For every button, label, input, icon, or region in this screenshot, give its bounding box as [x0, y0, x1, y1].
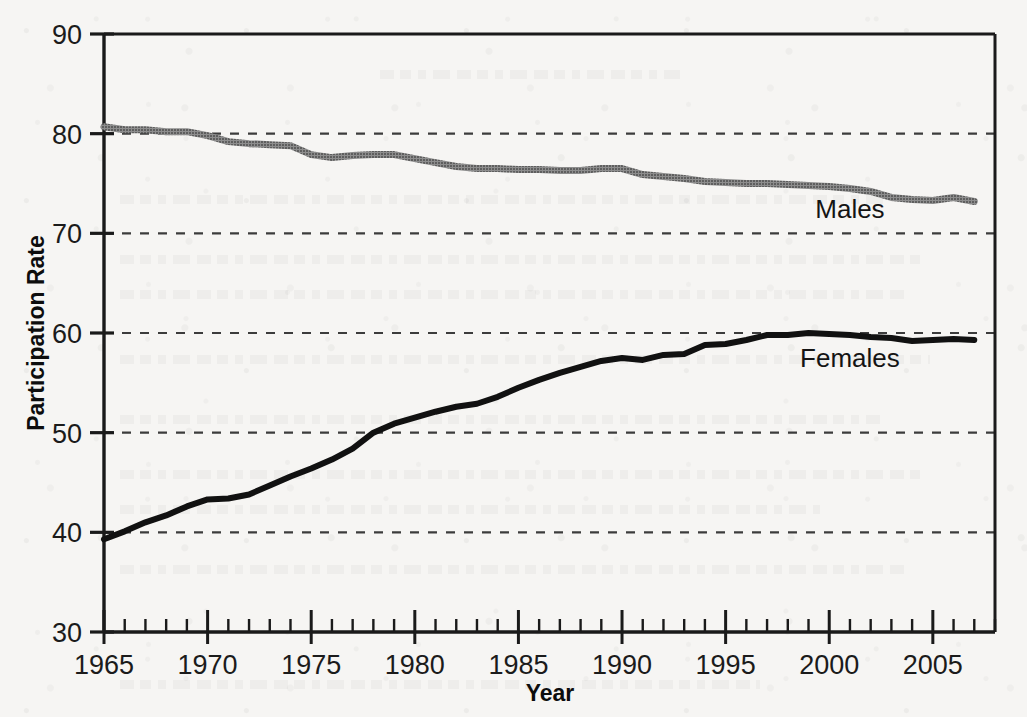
annotation-females: Females: [800, 343, 900, 373]
annotation-males: Males: [815, 194, 884, 224]
x-tick-label-1965: 1965: [74, 650, 134, 680]
x-tick-label-2005: 2005: [903, 650, 963, 680]
x-axis-tick-labels: 196519701975198019851990199520002005: [74, 650, 963, 680]
y-tick-label-70: 70: [52, 219, 82, 249]
y-axis-ticks: [90, 34, 114, 632]
y-axis-title: Participation Rate: [23, 235, 49, 431]
y-tick-label-40: 40: [52, 518, 82, 548]
x-tick-label-1995: 1995: [696, 650, 756, 680]
y-tick-label-60: 60: [52, 319, 82, 349]
x-tick-label-2000: 2000: [799, 650, 859, 680]
x-tick-label-1975: 1975: [281, 650, 341, 680]
y-tick-label-50: 50: [52, 419, 82, 449]
x-tick-label-1990: 1990: [592, 650, 652, 680]
y-tick-label-30: 30: [52, 618, 82, 648]
x-tick-label-1980: 1980: [385, 650, 445, 680]
x-tick-label-1970: 1970: [178, 650, 238, 680]
chart-figure: 30405060708090 1965197019751980198519901…: [0, 0, 1027, 717]
x-tick-label-1985: 1985: [488, 650, 548, 680]
x-axis-title: Year: [526, 680, 575, 706]
series-annotations: MalesFemales: [800, 194, 900, 373]
y-tick-label-90: 90: [52, 20, 82, 50]
y-tick-label-80: 80: [52, 120, 82, 150]
chart-plot-area: 30405060708090 1965197019751980198519901…: [0, 0, 1027, 717]
x-axis-minor-ticks: [125, 619, 995, 632]
y-axis-tick-labels: 30405060708090: [52, 20, 82, 648]
series-line-males: [104, 127, 974, 202]
